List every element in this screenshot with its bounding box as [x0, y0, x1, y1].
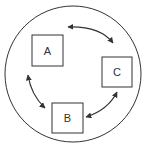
cycle-diagram: A C B	[0, 0, 147, 148]
node-a-label: A	[44, 45, 52, 57]
arrow-b-a	[28, 75, 45, 108]
node-b-label: B	[64, 112, 71, 124]
node-b: B	[52, 103, 83, 133]
arrow-a-c	[68, 27, 113, 43]
node-a: A	[32, 35, 63, 66]
node-c-label: C	[113, 66, 121, 78]
arrow-c-b	[86, 92, 117, 117]
node-c: C	[102, 57, 132, 87]
